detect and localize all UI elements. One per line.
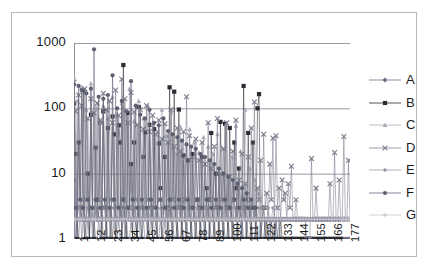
triangle-marker: [201, 135, 206, 140]
circle-marker: [186, 198, 190, 202]
square-marker: [383, 100, 387, 104]
x-axis-tick-label: 144: [298, 223, 310, 242]
chart-frame: 1000100101 11223344556677889100111122133…: [11, 12, 417, 257]
circle-marker: [249, 198, 253, 202]
circle-marker: [217, 166, 221, 170]
x-axis-tick-label: 133: [282, 223, 294, 242]
x-axis-tick-label: 12: [95, 230, 107, 242]
square-marker: [141, 155, 145, 159]
circle-marker: [120, 99, 124, 103]
circle-marker: [135, 206, 139, 210]
square-marker: [255, 106, 259, 110]
circle-marker: [138, 113, 142, 117]
circle-marker: [246, 206, 250, 210]
circle-marker: [112, 198, 116, 202]
plot-svg: [74, 43, 350, 239]
x-axis-tick-label: 89: [214, 230, 226, 242]
circle-marker: [90, 206, 94, 210]
legend-label: E: [406, 162, 415, 177]
legend-label: G: [406, 207, 416, 222]
x-axis-tick-label: 100: [231, 223, 243, 242]
legend-item-d[interactable]: D: [368, 137, 428, 160]
x-axis-tick-label: 166: [332, 223, 344, 242]
legend-item-e[interactable]: E: [368, 159, 428, 182]
legend-label: D: [406, 140, 415, 155]
circle-marker: [166, 129, 170, 133]
circle-marker: [84, 91, 88, 95]
circle-marker: [214, 198, 218, 202]
circle-marker: [205, 198, 209, 202]
legend-item-b[interactable]: B: [368, 92, 428, 115]
circle-marker: [245, 191, 249, 195]
legend-label: F: [406, 185, 414, 200]
circle-marker: [198, 152, 202, 156]
triangle-marker: [187, 127, 192, 132]
circle-marker: [107, 206, 111, 210]
circle-marker: [97, 95, 101, 99]
circle-marker: [383, 190, 387, 194]
circle-marker: [240, 186, 244, 190]
circle-marker: [157, 123, 161, 127]
square-marker: [228, 126, 232, 130]
x-axis-tick-label: 45: [146, 230, 158, 242]
circle-marker: [78, 198, 82, 202]
x-axis-tick-label: 177: [349, 223, 361, 242]
circle-marker: [177, 198, 181, 202]
circle-marker: [143, 116, 147, 120]
square-marker: [175, 237, 179, 239]
circle-marker: [158, 198, 162, 202]
x-axis-tick-label: 122: [265, 223, 277, 242]
dot-marker: [267, 206, 270, 209]
circle-marker: [144, 206, 148, 210]
diamond-marker: [383, 78, 388, 83]
legend-item-f[interactable]: F: [368, 182, 428, 205]
legend-label: C: [406, 117, 415, 132]
circle-marker: [254, 206, 258, 210]
square-marker: [93, 146, 97, 150]
legend-item-g[interactable]: G: [368, 204, 428, 227]
triangle-marker: [136, 98, 141, 103]
circle-marker: [172, 206, 176, 210]
square-marker: [167, 85, 171, 89]
square-marker: [121, 63, 125, 67]
circle-marker: [231, 178, 235, 182]
legend-marker-sample: [368, 114, 402, 136]
triangle-marker: [160, 107, 165, 112]
circle-marker: [92, 47, 96, 51]
legend-item-c[interactable]: C: [368, 114, 428, 137]
circle-marker: [103, 198, 107, 202]
dot-marker: [262, 206, 265, 209]
x-axis-tick-label: 1: [78, 236, 90, 242]
circle-marker: [101, 97, 105, 101]
circle-marker: [223, 198, 227, 202]
triangle-marker: [89, 81, 94, 86]
circle-marker: [77, 84, 81, 88]
circle-marker: [126, 206, 130, 210]
cross-marker: [346, 158, 350, 163]
x-axis-tick-label: 155: [315, 223, 327, 242]
circle-marker: [124, 109, 128, 113]
circle-marker: [163, 206, 167, 210]
circle-marker: [93, 198, 97, 202]
circle-marker: [218, 206, 222, 210]
circle-marker: [189, 144, 193, 148]
circle-marker: [194, 147, 198, 151]
legend-item-a[interactable]: A: [368, 69, 428, 92]
circle-marker: [171, 132, 175, 136]
circle-marker: [147, 108, 151, 112]
circle-marker: [208, 158, 212, 162]
circle-marker: [212, 162, 216, 166]
square-marker: [246, 131, 250, 135]
circle-marker: [110, 73, 114, 77]
x-axis-tick-label: 56: [163, 230, 175, 242]
circle-marker: [181, 206, 185, 210]
legend-label: B: [406, 95, 415, 110]
square-marker: [77, 140, 81, 144]
square-marker: [209, 131, 213, 135]
circle-marker: [81, 206, 85, 210]
x-axis-tick-label: 67: [180, 230, 192, 242]
plot-area: [74, 43, 350, 239]
circle-marker: [180, 139, 184, 143]
circle-marker: [117, 206, 121, 210]
circle-marker: [115, 106, 119, 110]
